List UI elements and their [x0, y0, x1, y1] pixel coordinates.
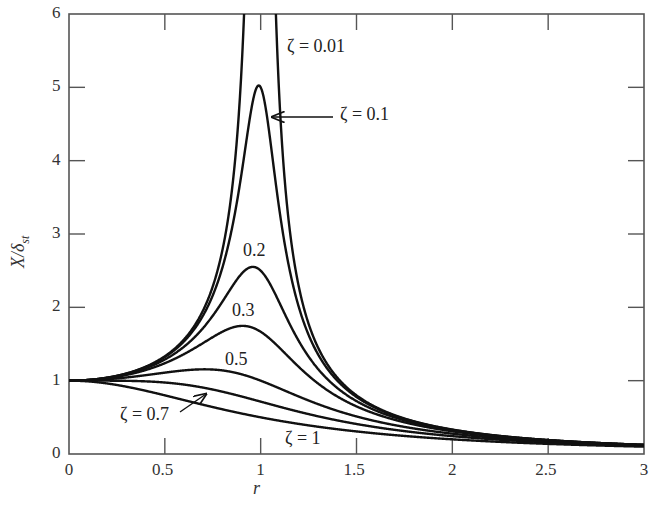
label-zeta-0.3: 0.3: [232, 300, 255, 321]
label-zeta-1: ζ = 1: [285, 428, 321, 449]
x-tick-label: 0.5: [152, 460, 173, 480]
y-tick-label: 2: [52, 296, 61, 316]
y-tick-label: 4: [52, 150, 61, 170]
label-zeta-0.2: 0.2: [243, 240, 266, 261]
y-tick-label: 3: [52, 223, 61, 243]
chart-canvas: [0, 0, 665, 512]
label-zeta-0.1: ζ = 0.1: [340, 104, 389, 125]
y-tick-label: 6: [52, 3, 61, 23]
x-tick-label: 2.5: [535, 460, 556, 480]
y-tick-label: 5: [52, 76, 61, 96]
curves: [69, 0, 644, 447]
plot-frame: [69, 14, 644, 454]
x-tick-label: 3: [640, 460, 649, 480]
x-tick-label: 1.5: [344, 460, 365, 480]
x-axis-label: r: [253, 478, 260, 499]
curve-zeta-0.3: [69, 326, 644, 445]
label-arrows: [180, 117, 333, 412]
x-tick-label: 2: [448, 460, 457, 480]
curve-zeta-0.1: [69, 85, 644, 444]
label-zeta-0.01: ζ = 0.01: [287, 36, 345, 57]
label-zeta-0.7: ζ = 0.7: [120, 404, 169, 425]
y-tick-label: 1: [52, 370, 61, 390]
y-tick-label: 0: [52, 443, 61, 463]
curve-zeta-0.01: [69, 0, 644, 445]
y-axis-label: X/δst: [8, 236, 33, 268]
arrow-zeta-0.7: [180, 394, 206, 412]
y-axis-label-sub: st: [18, 236, 32, 244]
x-tick-label: 0: [65, 460, 74, 480]
x-tick-label: 1: [256, 460, 265, 480]
label-zeta-0.5: 0.5: [225, 349, 248, 370]
y-axis-label-main: X/δ: [8, 244, 28, 268]
